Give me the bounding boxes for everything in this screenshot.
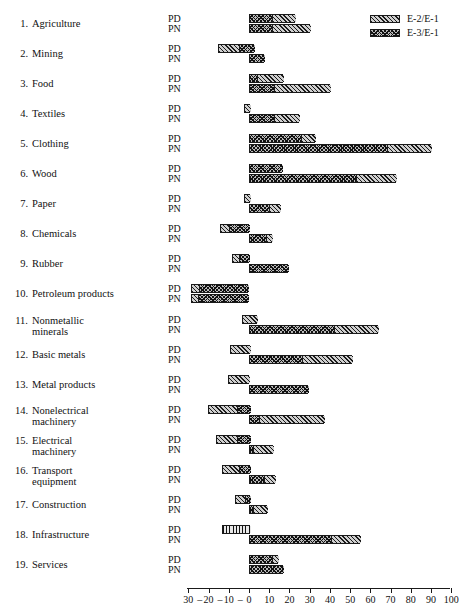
category-label: Clothing [32,138,172,150]
bar-pd [232,254,249,263]
chart-row: 10.Petroleum productsPDPN [0,284,455,310]
x-axis-tick [229,588,230,593]
chart-row: 7.PaperPDPN [0,194,455,220]
bar-segment [250,386,309,393]
bar-segment [301,135,316,142]
category-number: 19. [4,559,28,571]
x-axis-tick [289,588,290,593]
bar-pd [244,104,250,113]
category-number: 8. [4,228,28,240]
chart-row: 15.ElectricalmachineryPDPN [0,435,455,461]
bar-pd [220,224,249,233]
bar-pd [222,465,250,474]
bar-segment [250,356,302,363]
bar-pd [249,164,282,173]
bar-segment [253,506,268,513]
x-axis-tick [330,588,331,593]
bar-segment [239,255,250,262]
bar-segment [334,326,380,333]
bar-segment [250,556,272,563]
bar-segment [250,205,269,212]
bar-segment [253,446,274,453]
chart-row: 6.WoodPDPN [0,164,455,190]
x-axis: 30–20–10–0102030405060708090100 [0,588,455,614]
category-label: Nonmetallicminerals [32,315,172,338]
bar-segment [250,175,356,182]
bar-segment [237,436,251,443]
x-axis-tick [249,588,250,593]
chart-row: 5.ClothingPDPN [0,134,455,160]
subrow-label-pn: PN [168,325,194,336]
subrow-label-pn: PN [168,264,194,275]
x-axis-tick [188,588,189,593]
bar-segment [239,45,255,52]
chart-row: 8.ChemicalsPDPN [0,224,455,250]
bar-segment [250,566,284,573]
category-number: 13. [4,379,28,391]
bar-segment [257,75,284,82]
bar-segment [217,436,237,443]
bar-pd [191,284,248,293]
bar-segment [269,205,281,212]
bar-pd [208,405,250,414]
bar-segment [231,346,251,353]
subrow-label-pn: PN [168,294,194,305]
bar-segment [272,25,310,32]
category-label: Transportequipment [32,465,172,488]
subrow-label-pn: PN [168,24,194,35]
bar-segment [250,416,259,423]
bar-segment [250,25,272,32]
bar-segment [229,225,250,232]
bar-pn [249,114,299,123]
subrow-label-pn: PN [168,355,194,366]
category-label: Petroleum products [32,288,172,300]
bar-pn [249,475,275,484]
bar-pd [242,315,257,324]
bar-segment [243,316,258,323]
subrow-label-pn: PN [168,144,194,155]
bar-segment [250,165,283,172]
category-label: Paper [32,198,172,210]
category-number: 2. [4,48,28,60]
category-number: 18. [4,529,28,541]
bar-pd [235,495,250,504]
chart-row: 19.ServicesPDPN [0,555,455,581]
bar-pd [249,555,278,564]
category-number: 7. [4,198,28,210]
bar-segment [250,85,274,92]
bar-pd [222,525,250,534]
bar-pd [218,44,254,53]
bar-segment [274,85,331,92]
bar-segment [264,476,276,483]
bar-segment [259,416,325,423]
category-label-line2: machinery [32,416,172,428]
category-number: 3. [4,78,28,90]
category-label: Textiles [32,108,172,120]
category-number: 15. [4,435,28,447]
subrow-label-pn: PN [168,114,194,125]
chart-row: 9.RubberPDPN [0,254,455,280]
bar-segment [302,356,354,363]
x-axis-tick [310,588,311,593]
x-axis-tick-label: 100 [438,594,463,605]
chart-row: 18.InfrastructurePDPN [0,525,455,551]
category-number: 10. [4,288,28,300]
subrow-label-pn: PN [168,204,194,215]
bar-pn [191,294,248,303]
bar-segment [239,466,251,473]
bar-segment [250,55,265,62]
subrow-label-pn: PN [168,385,194,396]
subrow-label-pn: PN [168,54,194,65]
bar-segment [199,285,249,292]
subrow-label-pn: PN [168,445,194,456]
category-number: 6. [4,168,28,180]
bar-pd [249,74,283,83]
category-label: Food [32,78,172,90]
category-number: 12. [4,349,28,361]
x-axis-tick [370,588,371,593]
bar-pn [249,204,280,213]
bar-pn [249,535,360,544]
bar-pn [249,565,283,574]
category-label-line2: minerals [32,326,172,338]
bar-pd [228,375,249,384]
